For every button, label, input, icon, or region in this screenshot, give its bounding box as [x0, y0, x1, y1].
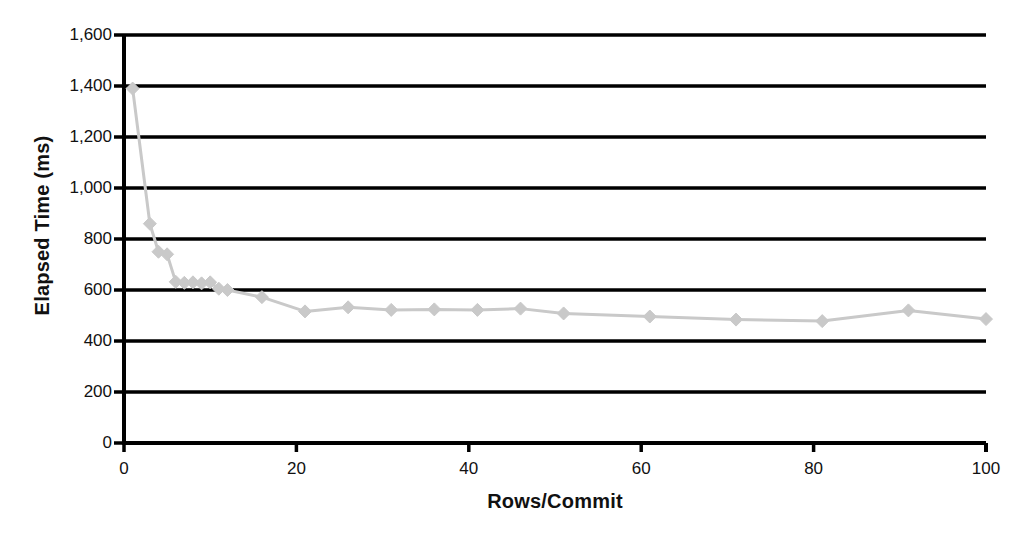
chart-plot-area [0, 0, 1014, 540]
data-point-marker [816, 315, 829, 328]
data-series-line [133, 89, 986, 322]
data-point-marker [255, 291, 268, 304]
data-point-marker [126, 82, 139, 95]
data-point-marker [342, 301, 355, 314]
data-point-marker [980, 313, 993, 326]
data-point-marker [514, 302, 527, 315]
gridlines [124, 35, 986, 392]
data-point-marker [299, 305, 312, 318]
data-point-marker [428, 303, 441, 316]
series-path [133, 89, 986, 322]
data-point-marker [643, 310, 656, 323]
data-point-marker [385, 303, 398, 316]
chart-container: Elapsed Time (ms) Rows/Commit 0200400600… [0, 0, 1014, 540]
axis-lines [122, 35, 986, 452]
data-point-marker [471, 303, 484, 316]
data-point-marker [221, 284, 234, 297]
data-point-marker [143, 217, 156, 230]
data-point-marker [902, 304, 915, 317]
data-point-marker [730, 313, 743, 326]
data-point-marker [557, 307, 570, 320]
